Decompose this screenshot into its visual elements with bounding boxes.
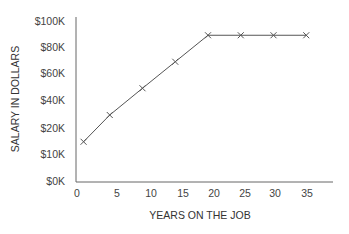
- x-marker-icon: [81, 139, 87, 145]
- x-tick-labels: 0 5 10 15 20 25 30 35: [74, 187, 313, 199]
- x-tick-label: 10: [145, 187, 157, 199]
- x-tick-label: 20: [208, 187, 220, 199]
- y-axis-title: SALARY IN DOLLARS: [9, 46, 21, 152]
- x-marker-icon: [172, 59, 178, 65]
- y-tick-label: $10K: [40, 148, 65, 160]
- salary-series-markers: [81, 32, 310, 145]
- x-marker-icon: [107, 112, 113, 118]
- salary-line-chart: $0K $10K $20K $40K $60K $80K $100K 0 5 1…: [0, 0, 349, 234]
- x-tick-label: 30: [269, 187, 281, 199]
- y-tick-label: $60K: [40, 67, 65, 79]
- y-tick-label: $80K: [40, 41, 65, 53]
- chart-canvas: $0K $10K $20K $40K $60K $80K $100K 0 5 1…: [0, 0, 349, 234]
- y-tick-labels: $0K $10K $20K $40K $60K $80K $100K: [35, 15, 65, 187]
- x-tick-label: 35: [301, 187, 313, 199]
- x-tick-label: 15: [177, 187, 189, 199]
- y-tick-label: $100K: [35, 15, 65, 27]
- x-axis-title: YEARS ON THE JOB: [149, 209, 250, 221]
- x-tick-label: 5: [114, 187, 120, 199]
- y-tick-label: $40K: [40, 94, 65, 106]
- y-tick-label: $0K: [46, 175, 65, 187]
- x-marker-icon: [140, 85, 146, 91]
- salary-series-line: [84, 35, 307, 142]
- x-tick-label: 0: [74, 187, 80, 199]
- x-tick-label: 25: [239, 187, 251, 199]
- y-tick-label: $20K: [40, 122, 65, 134]
